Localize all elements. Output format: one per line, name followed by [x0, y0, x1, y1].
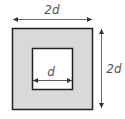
- top-width-label: 2d: [44, 3, 60, 17]
- inner-width-label: d: [47, 65, 55, 79]
- right-height-label: 2d: [106, 62, 122, 76]
- diagram-canvas: 2d 2d d: [0, 0, 125, 119]
